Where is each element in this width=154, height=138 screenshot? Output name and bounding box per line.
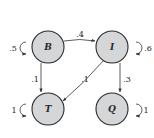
node-q: Q <box>96 93 128 125</box>
edge-label-i-self: .6 <box>144 44 152 53</box>
edge-label-i-to-t: .1 <box>81 75 89 84</box>
node-b: B <box>32 31 64 63</box>
edge-b-to-i: .4 <box>64 30 95 42</box>
edge-label-b-to-t: .1 <box>31 75 39 84</box>
edge-i-to-t: .1 <box>63 60 104 101</box>
edge-b-to-t: .1 <box>31 63 41 92</box>
edge-label-t-self: 1 <box>11 106 16 115</box>
edge-label-i-to-q: .3 <box>123 75 131 84</box>
node-label-b: B <box>43 42 52 52</box>
edge-label-b-to-i: .4 <box>76 30 84 39</box>
node-label-i: I <box>109 42 115 52</box>
self-loop-b: .5 <box>9 42 26 54</box>
self-loop-t: 1 <box>11 104 26 116</box>
edge-label-q-self: 1 <box>143 106 148 115</box>
edge-label-b-self: .5 <box>9 44 17 53</box>
markov-chain-diagram: .4 .1 .1 .3 .5 .6 1 1 B I T <box>0 0 154 138</box>
edge-i-to-q: .3 <box>120 63 131 92</box>
self-loop-i: .6 <box>136 42 152 54</box>
self-loop-q: 1 <box>136 104 149 116</box>
node-label-q: Q <box>108 104 116 114</box>
node-t: T <box>32 93 64 125</box>
node-i: I <box>96 31 128 63</box>
